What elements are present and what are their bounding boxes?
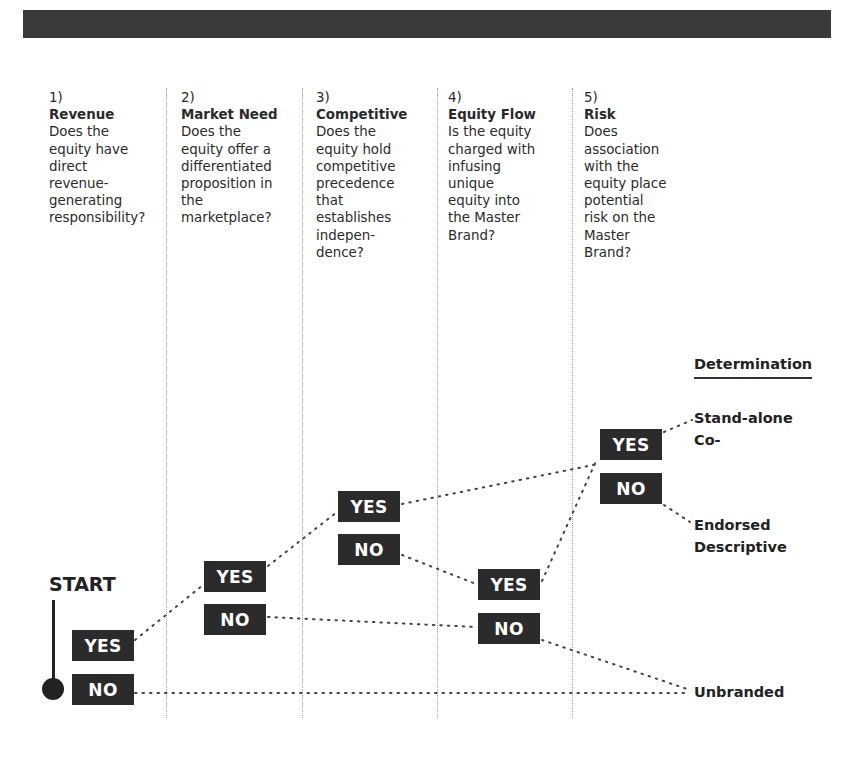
- determination-heading: Determination: [694, 356, 812, 379]
- q1-no-box: NO: [72, 674, 134, 705]
- outcome-co: Co-: [694, 429, 721, 451]
- start-node-icon: [42, 678, 64, 700]
- outcome-stand-alone: Stand-alone: [694, 407, 793, 429]
- q2-yes-box: YES: [204, 561, 266, 592]
- outcome-endorsed: Endorsed: [694, 514, 771, 536]
- q1-yes-box: YES: [72, 630, 134, 661]
- start-label: START: [49, 573, 116, 595]
- q3-yes-box: YES: [338, 491, 400, 522]
- q5-no-box: NO: [600, 473, 662, 504]
- q4-no-box: NO: [478, 613, 540, 644]
- outcome-unbranded: Unbranded: [694, 681, 784, 703]
- q5-yes-box: YES: [600, 429, 662, 460]
- start-stem: [52, 600, 55, 680]
- q4-yes-box: YES: [478, 569, 540, 600]
- outcome-descriptive: Descriptive: [694, 536, 787, 558]
- q2-no-box: NO: [204, 604, 266, 635]
- q3-no-box: NO: [338, 534, 400, 565]
